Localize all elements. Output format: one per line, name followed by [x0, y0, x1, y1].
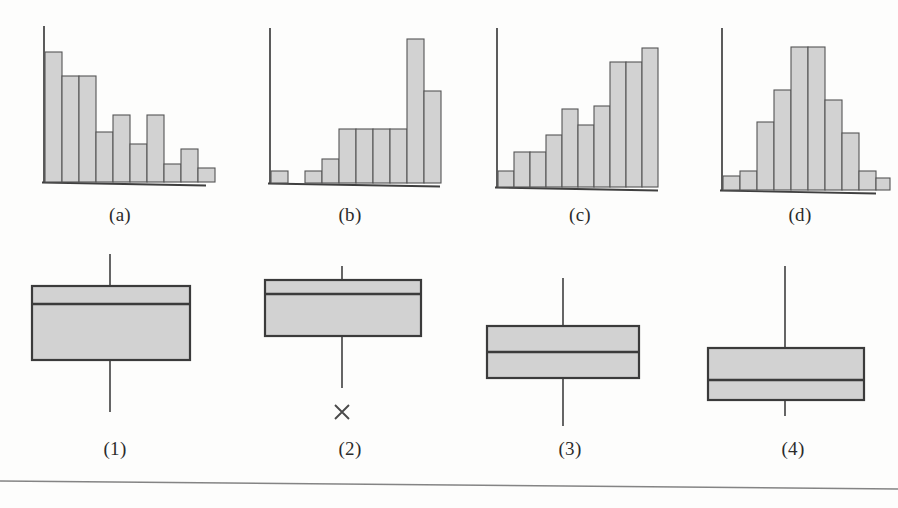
boxplot-1-plot [10, 248, 220, 438]
outlier-x-marker [335, 405, 349, 419]
histogram-d: (d) [700, 18, 898, 233]
boxplot-4-plot [688, 248, 898, 438]
histogram-a: (a) [20, 18, 220, 233]
histogram-b-bars [271, 39, 441, 183]
boxplot-2: (2) [245, 248, 455, 468]
histogram-d-plot [700, 18, 898, 198]
boxplot-3-label: (3) [465, 438, 675, 460]
boxplot-3-plot [465, 248, 675, 438]
boxplot-3: (3) [465, 248, 675, 468]
histogram-a-bars [45, 52, 215, 182]
boxplot-1-label: (1) [10, 438, 220, 460]
histogram-c-label: (c) [480, 204, 680, 226]
page-edge-line [0, 478, 898, 492]
box [32, 286, 190, 360]
histogram-c-bars [498, 48, 658, 187]
boxplot-2-plot [245, 248, 455, 438]
figure-root: (a) (b) [0, 0, 898, 508]
histogram-b-plot [250, 18, 450, 198]
histogram-a-plot [20, 18, 220, 198]
histogram-d-label: (d) [700, 204, 898, 226]
histogram-b: (b) [250, 18, 450, 233]
boxplot-1: (1) [10, 248, 220, 468]
histogram-c-plot [480, 18, 680, 198]
histogram-d-bars [723, 47, 890, 190]
histogram-a-label: (a) [20, 204, 220, 226]
box [708, 348, 864, 400]
histogram-c: (c) [480, 18, 680, 233]
box [265, 280, 421, 336]
boxplot-4-label: (4) [688, 438, 898, 460]
page-edge-rule [0, 478, 898, 492]
boxplot-4: (4) [688, 248, 898, 468]
boxplot-2-label: (2) [245, 438, 455, 460]
histogram-b-label: (b) [250, 204, 450, 226]
